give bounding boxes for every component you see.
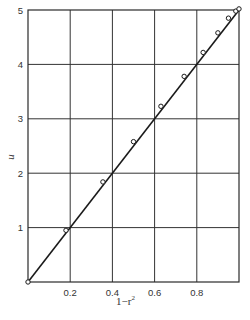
y-tick-label: 5 <box>18 5 23 16</box>
y-tick-label: 1 <box>18 222 23 233</box>
data-point-marker <box>64 228 68 232</box>
data-point-marker <box>237 7 241 11</box>
x-tick-label: 0.6 <box>148 287 161 298</box>
y-axis-label: u <box>4 154 16 160</box>
y-tick-label: 4 <box>18 59 23 70</box>
data-point-marker <box>226 16 230 20</box>
data-point-marker <box>201 50 205 54</box>
x-axis-label: 1−r2 <box>116 294 135 307</box>
data-point-marker <box>101 180 105 184</box>
y-tick-labels: 12345 <box>18 5 23 234</box>
data-point-marker <box>131 139 135 143</box>
fit-line <box>28 10 239 282</box>
x-tick-label: 0.8 <box>190 287 203 298</box>
data-point-marker <box>216 31 220 35</box>
y-tick-label: 3 <box>18 113 23 124</box>
y-tick-label: 2 <box>18 168 23 179</box>
data-point-marker <box>159 104 163 108</box>
data-point-marker <box>26 280 30 284</box>
chart: 0.20.40.60.8 12345 1−r2 u <box>0 0 250 320</box>
x-tick-label: 0.2 <box>64 287 77 298</box>
data-point-marker <box>182 74 186 78</box>
